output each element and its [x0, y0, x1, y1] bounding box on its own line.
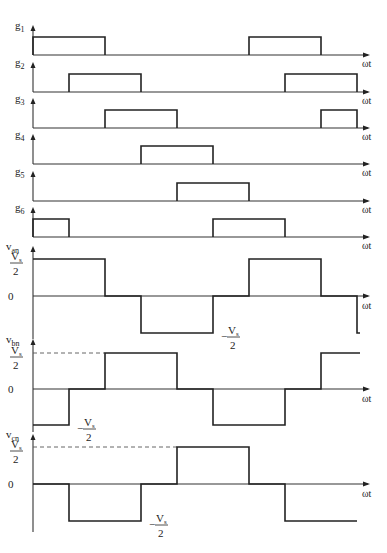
waveform-diagram: g1ωtg2ωtg3ωtg4ωtg5ωtg6ωtvanωt0Vs2−Vs2vbn… [0, 0, 387, 553]
g2-x-arrow-icon [363, 90, 370, 95]
g3-label: g3 [15, 92, 25, 107]
van-x-label: ωt [362, 300, 372, 311]
g2-pulse-train [69, 74, 357, 92]
vbn-neg-level-label-minus: − [77, 422, 83, 434]
g1-pulse-train [33, 37, 321, 55]
vbn-x-arrow-icon [363, 387, 370, 392]
g5-axis-arrow-icon [31, 171, 36, 177]
g1-x-arrow-icon [363, 53, 370, 58]
van-neg-level-label-numerator: Vs [228, 324, 239, 338]
vcn-pos-level-label-numerator: Vs [11, 438, 22, 452]
g4-label: g4 [15, 128, 25, 143]
vbn-pos-level-label-denominator: 2 [13, 359, 19, 371]
g5-x-label: ωt [362, 204, 372, 215]
van-pos-level-label-numerator: Vs [11, 250, 22, 264]
vbn-neg-level-label-numerator: Vs [84, 416, 95, 430]
van-x-arrow-icon [363, 294, 370, 299]
g4-axis-arrow-icon [31, 134, 36, 140]
g5-label: g5 [15, 165, 25, 180]
van-neg-level-label-denominator: 2 [230, 339, 236, 351]
g6-x-label: ωt [362, 240, 372, 251]
vcn-pos-level-label-denominator: 2 [13, 453, 19, 465]
g3-pulse-train [105, 110, 357, 128]
g2-axis-arrow-icon [31, 62, 36, 68]
vcn-neg-level-label-minus: − [149, 518, 155, 530]
vbn-waveform [33, 353, 360, 425]
g1-label: g1 [15, 19, 25, 34]
g1-axis-arrow-icon [31, 25, 36, 31]
vcn-neg-level-label-denominator: 2 [158, 527, 164, 539]
vcn-axis-arrow-icon [31, 434, 36, 440]
van-pos-level-label-denominator: 2 [13, 265, 19, 277]
g1-x-label: ωt [362, 58, 372, 69]
vcn-x-label: ωt [362, 488, 372, 499]
g6-label: g6 [15, 201, 25, 216]
g3-axis-arrow-icon [31, 98, 36, 104]
vbn-neg-level-label-denominator: 2 [86, 431, 92, 443]
vbn-zero-label: 0 [8, 383, 14, 395]
g5-pulse-train [177, 183, 249, 201]
g6-pulse-train [33, 219, 285, 237]
van-axis-arrow-icon [31, 246, 36, 252]
g4-x-label: ωt [362, 167, 372, 178]
vbn-pos-level-label-numerator: Vs [11, 344, 22, 358]
vcn-zero-label: 0 [8, 478, 14, 490]
van-zero-label: 0 [8, 290, 14, 302]
vcn-neg-level-label-numerator: Vs [156, 512, 167, 526]
vbn-axis-arrow-icon [31, 339, 36, 345]
g5-x-arrow-icon [363, 199, 370, 204]
g2-label: g2 [15, 56, 25, 71]
g6-axis-arrow-icon [31, 207, 36, 213]
g4-x-arrow-icon [363, 162, 370, 167]
vbn-x-label: ωt [362, 393, 372, 404]
g3-x-label: ωt [362, 131, 372, 142]
van-neg-level-label-minus: − [221, 330, 227, 342]
g3-x-arrow-icon [363, 126, 370, 131]
vcn-x-arrow-icon [363, 482, 370, 487]
g4-pulse-train [141, 146, 213, 164]
g6-x-arrow-icon [363, 235, 370, 240]
g2-x-label: ωt [362, 95, 372, 106]
